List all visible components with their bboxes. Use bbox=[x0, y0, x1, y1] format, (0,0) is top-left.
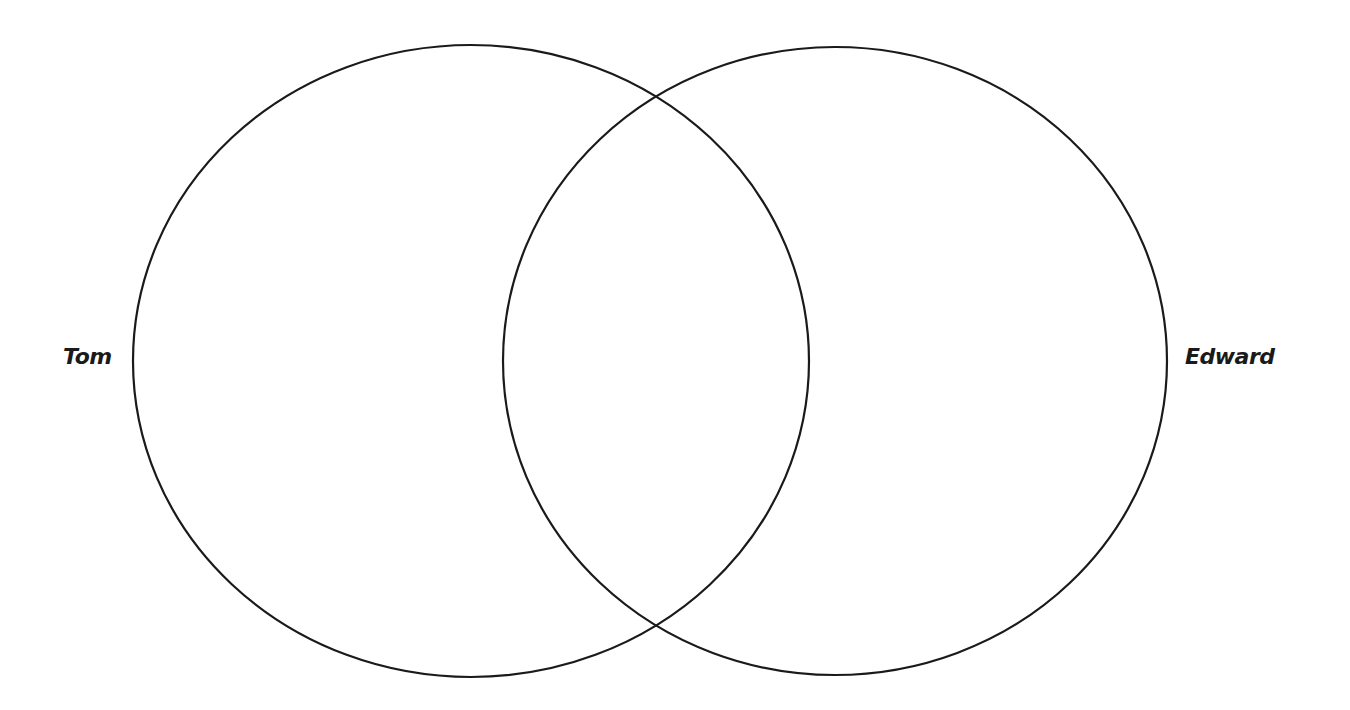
venn-circle-edward bbox=[503, 47, 1167, 675]
venn-circle-tom bbox=[133, 45, 809, 677]
set-label-edward: Edward bbox=[1185, 344, 1275, 369]
set-label-tom: Tom bbox=[63, 344, 112, 369]
venn-diagram bbox=[0, 0, 1350, 710]
